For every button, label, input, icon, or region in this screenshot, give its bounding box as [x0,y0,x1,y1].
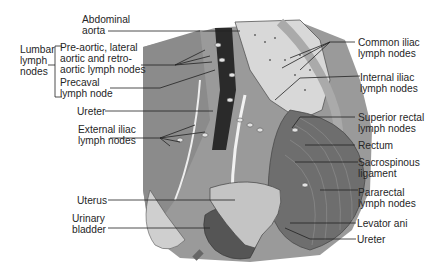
label-lumbar-lymph-nodes: Lumbar lymph nodes [20,44,55,77]
label-abdominal-aorta: Abdominal aorta [82,14,130,36]
label-urinary-bladder: Urinary bladder [72,213,106,235]
label-line: lymph nodes [360,83,418,94]
label-ureter-right: Ureter [357,234,385,245]
label-line: ligament [358,168,420,179]
label-line: aortic and retro- [60,53,146,64]
label-line: lymph nodes [358,48,420,59]
label-sacrospinous-ligament: Sacrospinous ligament [358,157,420,179]
label-line: Precaval [60,77,113,88]
label-line: Superior rectal [358,112,424,123]
label-levator-ani: Levator ani [357,218,407,229]
label-line: aortic lymph nodes [60,64,146,75]
label-ureter-left: Ureter [77,106,105,117]
label-external-iliac-lymph-nodes: External iliac lymph nodes [78,124,136,146]
label-line: External iliac [78,124,136,135]
label-preaortic-lymph-nodes: Pre-aortic, lateral aortic and retro- ao… [60,42,146,75]
label-internal-iliac-lymph-nodes: Internal iliac lymph nodes [360,72,418,94]
label-line: Pre-aortic, lateral [60,42,146,53]
label-line: nodes [20,66,55,77]
label-line: Internal iliac [360,72,418,83]
label-line: bladder [72,224,106,235]
label-line: Pararectal [358,187,416,198]
label-rectum: Rectum [358,140,393,151]
label-superior-rectal-lymph-nodes: Superior rectal lymph nodes [358,112,424,134]
label-line: Abdominal [82,14,130,25]
label-pararectal-lymph-nodes: Pararectal lymph nodes [358,187,416,209]
label-line: Urinary [72,213,106,224]
label-uterus: Uterus [77,195,107,206]
label-precaval-lymph-node: Precaval lymph node [60,77,113,99]
label-common-iliac-lymph-nodes: Common iliac lymph nodes [358,37,420,59]
pelvic-lymph-diagram: Abdominal aorta Lumbar lymph nodes Pre-a… [0,0,429,275]
label-line: lymph nodes [358,123,424,134]
label-line: aorta [82,25,130,36]
label-line: lymph nodes [358,198,416,209]
label-line: lymph nodes [78,135,136,146]
label-line: Common iliac [358,37,420,48]
label-line: Sacrospinous [358,157,420,168]
label-line: Lumbar [20,44,55,55]
label-line: lymph node [60,88,113,99]
label-line: lymph [20,55,55,66]
